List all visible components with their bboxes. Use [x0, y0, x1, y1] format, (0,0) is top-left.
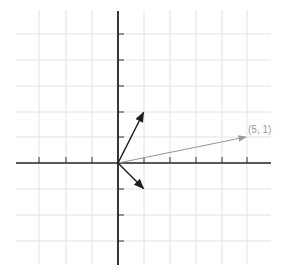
- coordinate-plane: (5, 1): [0, 0, 284, 276]
- grid: [16, 10, 271, 264]
- vector-1-neg1-arrow: [118, 163, 144, 189]
- vector-1-2-arrow: [118, 113, 144, 164]
- vector-5-1-arrow: [118, 137, 246, 163]
- vector-5-1-label: (5, 1): [248, 124, 271, 135]
